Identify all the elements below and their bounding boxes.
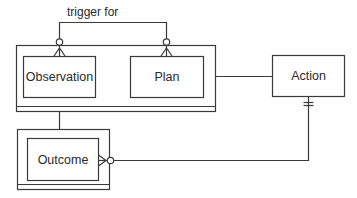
entity-action-label: Action bbox=[291, 69, 326, 83]
entity-plan-label: Plan bbox=[154, 70, 179, 84]
relationship-label-trigger-for: trigger for bbox=[67, 5, 118, 19]
entity-observation-label: Observation bbox=[26, 70, 93, 84]
er-diagram: trigger for Observation Plan Action Outc… bbox=[0, 0, 357, 198]
entity-outcome-label: Outcome bbox=[38, 153, 89, 167]
